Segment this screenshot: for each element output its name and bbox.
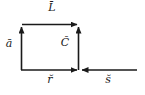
vector-diagram-figure: L̄ ā C̆ r̆ s̆ [0, 0, 145, 95]
bottom-left-vector-label-r: r̆ [40, 74, 60, 85]
left-vector-label-a: ā [1, 38, 17, 49]
top-vector-label-L: L̄ [40, 2, 64, 13]
bottom-right-vector-label-s: s̆ [98, 74, 118, 85]
center-vector-label-C: C̆ [55, 37, 75, 48]
